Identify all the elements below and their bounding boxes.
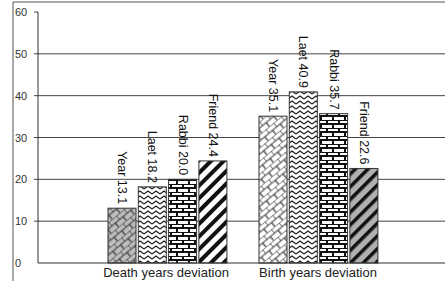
bar-value-label: Year 35.1	[266, 59, 280, 112]
bar-friend	[199, 161, 227, 263]
bar-value-label: Laet 40.9	[296, 36, 310, 88]
bar-value-label: Year 13.1	[115, 151, 129, 204]
category-label-birth: Birth years deviation	[259, 265, 377, 280]
bar-value-label: Rabbi 35.7	[327, 49, 341, 110]
bar-laet	[138, 187, 166, 263]
chart-frame	[13, 2, 445, 281]
y-tick-label: 40	[15, 90, 27, 102]
y-tick-label: 30	[15, 132, 27, 144]
bar-rabbi	[169, 179, 197, 263]
y-tick-label: 10	[15, 215, 27, 227]
y-axis-tick-labels: 0102030405060	[15, 6, 27, 269]
category-label-death: Death years deviation	[103, 265, 229, 280]
bar-value-label: Friend 24.4	[206, 94, 220, 157]
y-tick-label: 0	[15, 257, 21, 269]
y-tick-label: 50	[15, 48, 27, 60]
bar-value-label: Laet 18.2	[145, 131, 159, 183]
bar-friend	[350, 168, 378, 263]
bar-rabbi	[320, 114, 348, 263]
y-tick-label: 20	[15, 173, 27, 185]
y-tick-label: 60	[15, 6, 27, 18]
bar-year	[108, 208, 136, 263]
bar-value-label: Friend 22.6	[357, 101, 371, 164]
bar-year	[259, 116, 287, 263]
bar-value-label: Rabbi 20.0	[176, 115, 190, 176]
bar-chart: 0102030405060 Year 13.1Laet 18.2Rabbi 20…	[0, 0, 445, 281]
bar-laet	[289, 92, 317, 263]
gridlines	[34, 12, 445, 221]
